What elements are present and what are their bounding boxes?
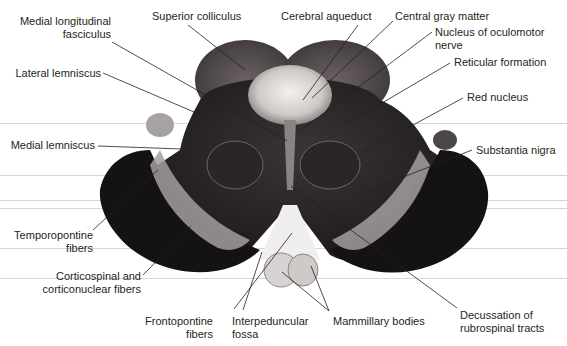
label-lateral-lemniscus: Lateral lemniscus — [15, 67, 101, 80]
left-red-nucleus — [207, 141, 263, 189]
label-frontopontine-fibers: Frontopontine fibers — [145, 315, 213, 341]
label-interpeduncular-fossa: Interpeduncular fossa — [232, 315, 308, 341]
label-mammillary-bodies: Mammillary bodies — [333, 315, 425, 328]
label-superior-colliculus: Superior colliculus — [152, 10, 241, 23]
label-temporopontine-fibers: Temporopontine fibers — [14, 229, 93, 255]
label-cerebral-aqueduct: Cerebral aqueduct — [281, 10, 372, 23]
left-lateral-lobe — [146, 113, 174, 137]
label-reticular-formation: Reticular formation — [454, 56, 546, 69]
label-corticospinal-corticonuclear-fibers: Corticospinal and corticonuclear fibers — [43, 270, 141, 296]
label-line: Nucleus of oculomotor — [435, 26, 544, 39]
label-line: Corticospinal and — [43, 270, 141, 283]
label-line: fibers — [14, 242, 93, 255]
label-nucleus-of-oculomotor-nerve: Nucleus of oculomotor nerve — [435, 26, 544, 52]
label-line: fibers — [145, 328, 213, 341]
label-line: nerve — [435, 39, 544, 52]
label-medial-lemniscus: Medial lemniscus — [11, 139, 95, 152]
label-line: rubrospinal tracts — [460, 322, 544, 335]
label-line: Interpeduncular — [232, 315, 308, 328]
label-line: Temporopontine — [14, 229, 93, 242]
label-medial-longitudinal-fasciculus: Medial longitudinal fasciculus — [20, 15, 111, 41]
label-line: fasciculus — [20, 28, 111, 41]
label-line: fossa — [232, 328, 308, 341]
label-central-gray-matter: Central gray matter — [395, 10, 489, 23]
label-red-nucleus: Red nucleus — [467, 91, 528, 104]
right-red-nucleus — [300, 141, 360, 189]
label-line: Decussation of — [460, 309, 544, 322]
label-line: corticonuclear fibers — [43, 283, 141, 296]
midbrain-diagram: Medial longitudinal fasciculus Superior … — [0, 0, 567, 346]
right-lateral-lobe — [433, 130, 457, 150]
label-line: Medial longitudinal — [20, 15, 111, 28]
label-line: Frontopontine — [145, 315, 213, 328]
label-substantia-nigra: Substantia nigra — [476, 144, 556, 157]
label-decussation-of-rubrospinal-tracts: Decussation of rubrospinal tracts — [460, 309, 544, 335]
